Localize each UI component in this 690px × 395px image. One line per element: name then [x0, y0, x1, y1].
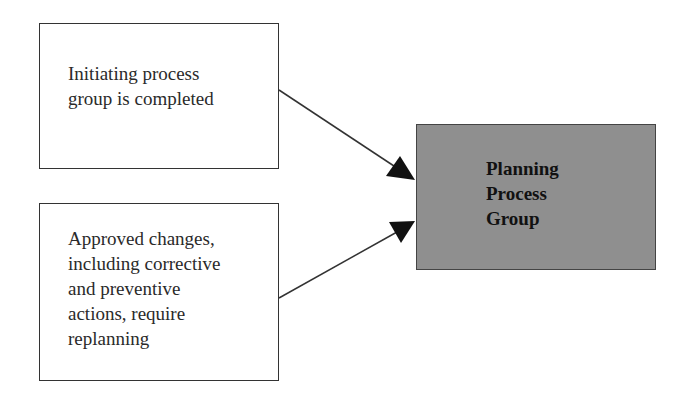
arrow-initiating-to-planning [279, 90, 415, 180]
arrowhead-icon [386, 156, 415, 180]
arrow-approved-to-planning [279, 221, 415, 298]
arrowhead-icon [389, 221, 415, 243]
connector-arrows [0, 0, 690, 395]
